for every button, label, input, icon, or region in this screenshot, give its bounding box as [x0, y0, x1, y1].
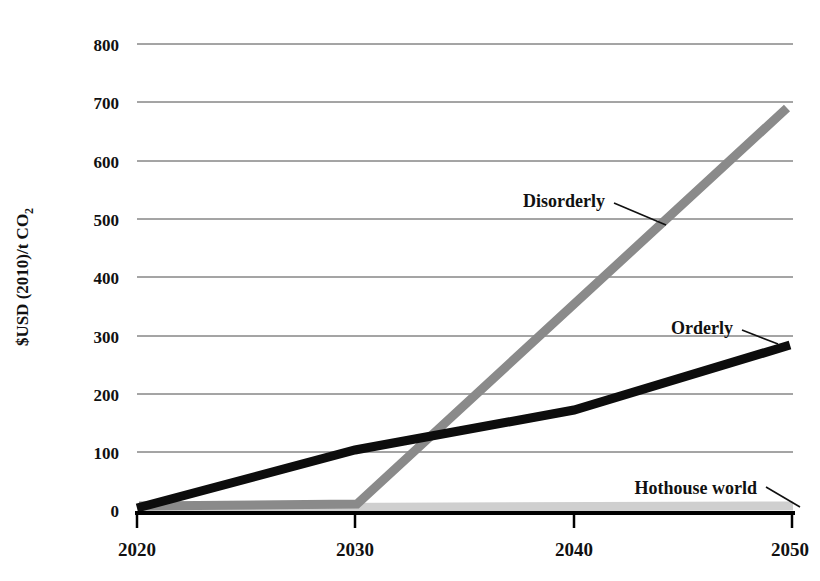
annotation-orderly: Orderly	[671, 318, 778, 344]
annotation-leader-orderly	[742, 330, 778, 344]
annotation-disorderly: Disorderly	[523, 191, 666, 225]
y-axis-title-main: $USD (2010)/t CO	[13, 214, 32, 346]
annotation-label-orderly: Orderly	[671, 318, 733, 338]
line-chart-canvas: 800 700 600 500 400 300 200 100 0 $USD (…	[0, 0, 820, 581]
chart-figure: 800 700 600 500 400 300 200 100 0 $USD (…	[0, 0, 820, 581]
series-disorderly	[139, 108, 787, 506]
annotation-leader-disorderly	[614, 203, 666, 225]
y-tick-label-800: 800	[94, 36, 120, 55]
x-axis-tick-marks	[137, 513, 792, 528]
y-tick-label-100: 100	[94, 444, 120, 463]
gridlines	[137, 44, 793, 452]
annotation-label-hothouse-world: Hothouse world	[634, 478, 757, 498]
y-axis-tick-labels: 800 700 600 500 400 300 200 100 0	[94, 36, 120, 521]
x-tick-label-2020: 2020	[118, 539, 156, 560]
y-tick-label-0: 0	[111, 502, 120, 521]
y-tick-label-200: 200	[94, 386, 120, 405]
series-line-disorderly	[139, 108, 787, 506]
y-tick-label-600: 600	[94, 153, 120, 172]
y-axis-title-subscript: 2	[22, 208, 36, 214]
x-tick-label-2050: 2050	[771, 539, 809, 560]
y-tick-label-700: 700	[94, 94, 120, 113]
annotation-label-disorderly: Disorderly	[523, 191, 605, 211]
y-axis-title-group: $USD (2010)/t CO2	[13, 208, 36, 346]
y-tick-label-400: 400	[94, 269, 120, 288]
x-tick-label-2040: 2040	[555, 539, 593, 560]
y-tick-label-500: 500	[94, 211, 120, 230]
y-axis-title: $USD (2010)/t CO2	[13, 208, 36, 346]
y-tick-label-300: 300	[94, 328, 120, 347]
x-axis-tick-labels: 2020 2030 2040 2050	[118, 539, 809, 560]
x-tick-label-2030: 2030	[336, 539, 374, 560]
